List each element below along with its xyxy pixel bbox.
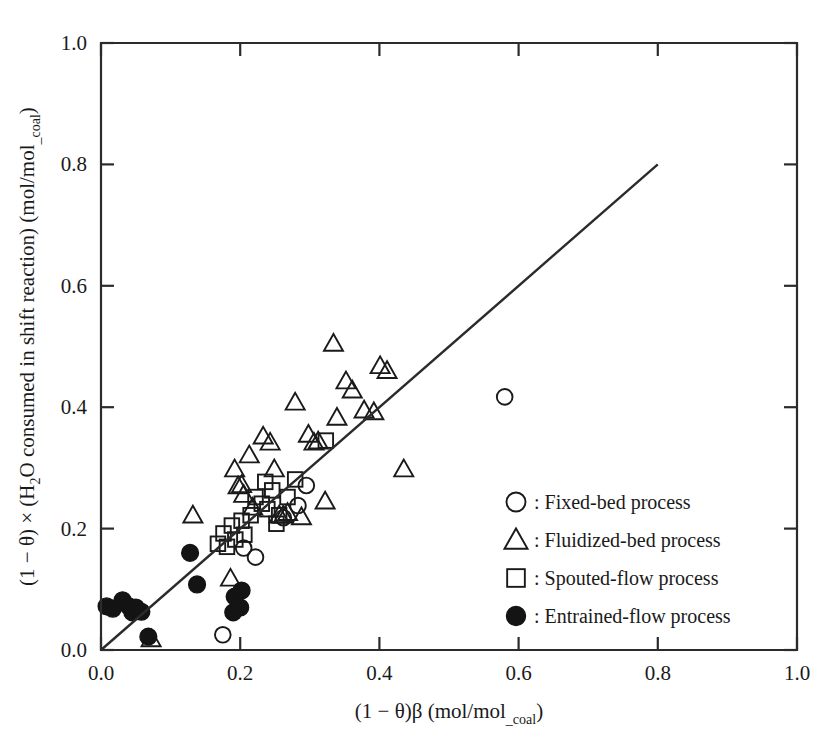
y-tick-label: 0.8 bbox=[61, 152, 87, 176]
data-point-marker bbox=[371, 356, 390, 373]
y-axis-title: (1 − θ) × (H2O consumed in shift reactio… bbox=[15, 107, 43, 586]
y-tick-label: 0.4 bbox=[61, 395, 88, 419]
legend-item: : Fluidized-bed process bbox=[504, 528, 720, 552]
series-entrained-flow-process bbox=[98, 544, 250, 645]
legend-label: : Fixed-bed process bbox=[534, 491, 691, 514]
x-axis-title: (1 − θ)β (mol/mol_coal) bbox=[355, 699, 543, 727]
legend-label: : Fluidized-bed process bbox=[534, 529, 721, 552]
data-point-marker bbox=[189, 576, 206, 593]
data-point-marker bbox=[240, 446, 259, 463]
x-tick-label: 0.4 bbox=[366, 661, 393, 685]
x-tick-label: 0.0 bbox=[88, 661, 114, 685]
legend-label: : Entrained-flow process bbox=[534, 605, 731, 628]
y-tick-label: 1.0 bbox=[61, 31, 87, 55]
x-tick-label: 0.2 bbox=[227, 661, 253, 685]
data-point-marker bbox=[182, 544, 199, 561]
data-point-marker bbox=[298, 478, 314, 494]
legend-marker-icon bbox=[506, 606, 525, 625]
legend: : Fixed-bed process: Fluidized-bed proce… bbox=[504, 491, 730, 628]
plot-canvas: 0.00.20.40.60.81.00.00.20.40.60.81.0(1 −… bbox=[0, 0, 834, 747]
legend-marker-icon bbox=[507, 569, 525, 587]
data-point-marker bbox=[233, 582, 250, 599]
legend-item: : Entrained-flow process bbox=[506, 605, 730, 628]
data-point-marker bbox=[324, 334, 343, 351]
data-point-marker bbox=[327, 408, 346, 425]
scatter-plot-figure: 0.00.20.40.60.81.00.00.20.40.60.81.0(1 −… bbox=[0, 0, 834, 747]
legend-marker-icon bbox=[504, 528, 527, 548]
data-point-marker bbox=[286, 393, 305, 410]
data-point-marker bbox=[133, 603, 150, 620]
data-point-marker bbox=[316, 492, 335, 509]
data-point-marker bbox=[140, 628, 157, 645]
data-point-marker bbox=[497, 389, 513, 405]
data-point-marker bbox=[215, 627, 231, 643]
data-point-marker bbox=[248, 549, 264, 565]
x-tick-label: 1.0 bbox=[784, 661, 810, 685]
data-point-marker bbox=[394, 460, 413, 477]
y-tick-label: 0.0 bbox=[61, 638, 87, 662]
y-tick-label: 0.6 bbox=[61, 274, 87, 298]
data-point-marker bbox=[183, 506, 202, 523]
x-tick-label: 0.6 bbox=[505, 661, 531, 685]
data-point-marker bbox=[232, 599, 249, 616]
y-tick-label: 0.2 bbox=[61, 517, 87, 541]
data-point-marker bbox=[261, 433, 280, 450]
series-fluidized-bed-process bbox=[142, 334, 414, 646]
legend-item: : Fixed-bed process bbox=[506, 491, 690, 514]
legend-label: : Spouted-flow process bbox=[534, 567, 719, 590]
x-tick-label: 0.8 bbox=[645, 661, 671, 685]
legend-item: : Spouted-flow process bbox=[507, 567, 718, 590]
legend-marker-icon bbox=[506, 492, 525, 511]
